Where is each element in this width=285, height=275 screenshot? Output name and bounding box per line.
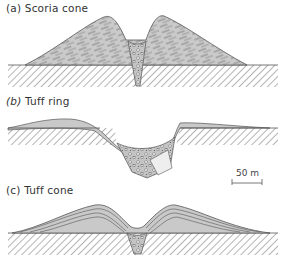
tuff-cone-deposit (12, 205, 270, 233)
tuff-cone-section (8, 205, 278, 255)
scoria-cone-section (8, 16, 278, 87)
volcano-cross-sections (0, 0, 285, 275)
scale-bar-label-container: 50 m (230, 168, 264, 186)
scale-bar-label: 50 m (236, 168, 259, 178)
ground-hatching (8, 65, 278, 87)
